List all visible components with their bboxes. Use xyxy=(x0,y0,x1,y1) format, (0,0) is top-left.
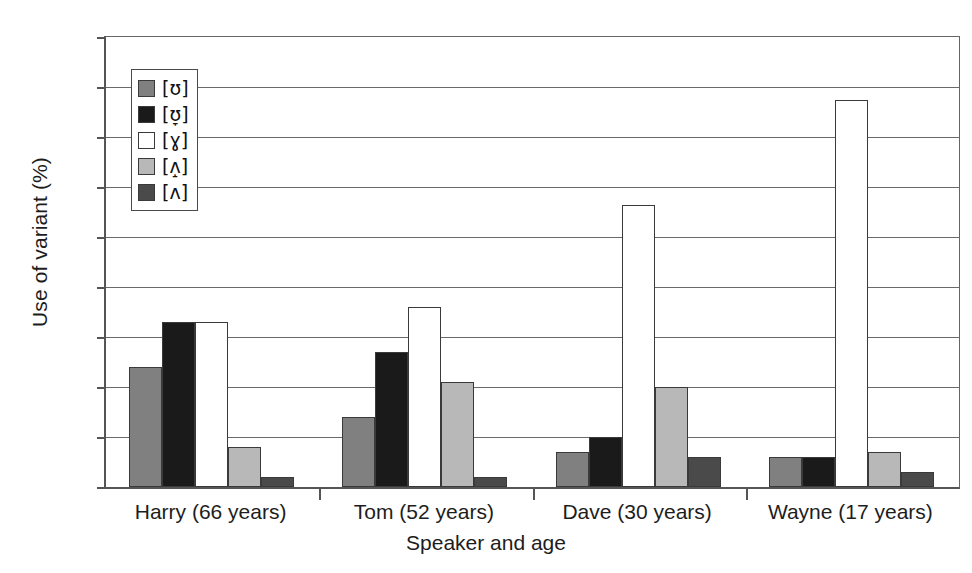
bar xyxy=(474,477,507,487)
x-axis-category-label: Dave (30 years) xyxy=(531,500,744,524)
legend-item-label: [ɣ] xyxy=(162,131,188,150)
legend-item: [ʌ̝] xyxy=(138,153,189,179)
bar xyxy=(868,452,901,487)
plot-area xyxy=(104,36,960,489)
legend-swatch-icon xyxy=(138,158,155,175)
legend-swatch-icon xyxy=(138,184,155,201)
x-axis-category-label: Tom (52 years) xyxy=(317,500,530,524)
bar xyxy=(195,322,228,487)
bar xyxy=(129,367,162,487)
legend-item: [ʊ̞] xyxy=(138,101,189,127)
legend-item-label: [ʊ] xyxy=(162,79,189,98)
bar xyxy=(556,452,589,487)
legend-item-label: [ʌ] xyxy=(162,183,188,202)
bar xyxy=(622,205,655,488)
y-axis-tick xyxy=(97,137,106,139)
bar xyxy=(441,382,474,487)
bar-chart: Use of variant (%) 9080706050403020100 H… xyxy=(0,0,972,573)
y-axis-tick xyxy=(97,287,106,289)
bar xyxy=(228,447,261,487)
legend-item: [ʊ] xyxy=(138,75,189,101)
bar xyxy=(802,457,835,487)
legend-swatch-icon xyxy=(138,132,155,149)
legend: [ʊ][ʊ̞][ɣ][ʌ̝][ʌ] xyxy=(131,69,198,211)
bar xyxy=(261,477,294,487)
bars-layer xyxy=(106,37,959,487)
y-axis-tick xyxy=(97,237,106,239)
bar xyxy=(835,100,868,488)
x-axis-tick xyxy=(533,487,535,500)
y-axis-tick xyxy=(97,337,106,339)
y-axis-title: Use of variant (%) xyxy=(28,12,52,472)
y-axis-tick xyxy=(97,187,106,189)
y-axis-tick xyxy=(97,387,106,389)
legend-swatch-icon xyxy=(138,80,155,97)
bar xyxy=(688,457,721,487)
bar xyxy=(769,457,802,487)
legend-item-label: [ʊ̞] xyxy=(162,105,189,124)
legend-item: [ʌ] xyxy=(138,179,189,205)
x-axis-category-label: Harry (66 years) xyxy=(104,500,317,524)
x-axis-category-label: Wayne (17 years) xyxy=(744,500,957,524)
x-axis-tick xyxy=(319,487,321,500)
legend-item: [ɣ] xyxy=(138,127,189,153)
y-axis-tick xyxy=(97,487,106,489)
bar xyxy=(901,472,934,487)
bar xyxy=(589,437,622,487)
y-axis-tick xyxy=(97,37,106,39)
y-axis-tick xyxy=(97,87,106,89)
legend-item-label: [ʌ̝] xyxy=(162,157,188,176)
y-axis-tick xyxy=(97,437,106,439)
x-axis-title: Speaker and age xyxy=(0,531,972,555)
x-axis-tick xyxy=(746,487,748,500)
bar xyxy=(408,307,441,487)
bar xyxy=(342,417,375,487)
legend-swatch-icon xyxy=(138,106,155,123)
bar xyxy=(162,322,195,487)
bar xyxy=(655,387,688,487)
bar xyxy=(375,352,408,487)
